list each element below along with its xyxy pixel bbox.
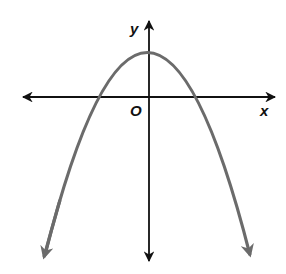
parabola-curve	[45, 53, 250, 256]
parabola-graph: y x O	[0, 0, 286, 274]
origin-label: O	[130, 102, 142, 119]
x-axis-label: x	[259, 102, 269, 119]
y-axis-label: y	[129, 20, 139, 37]
parabola-left-arrow	[44, 200, 60, 257]
